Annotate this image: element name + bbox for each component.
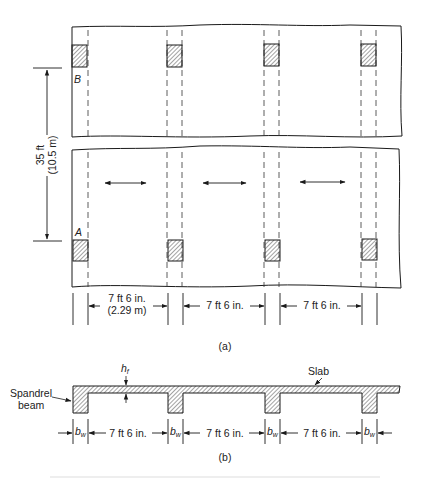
- column-label-A: A: [74, 226, 82, 238]
- span-3-label: 7 ft 6 in.: [303, 299, 340, 311]
- plan-view: B A 35 ft (10.5 m): [33, 24, 402, 352]
- svg-text:bw: bw: [267, 425, 279, 438]
- span-direction-arrows: [105, 182, 345, 183]
- beam-label: beam: [18, 399, 45, 411]
- caption-b: (b): [219, 451, 232, 463]
- caption-a: (a): [219, 340, 232, 352]
- clear-span-1: 7 ft 6 in.: [109, 427, 146, 439]
- span-1-label: 7 ft 6 in.: [108, 292, 145, 304]
- svg-text:35 ft: 35 ft: [34, 145, 46, 166]
- faint-bleed-through: [50, 476, 380, 478]
- tbeam-section: [73, 386, 400, 413]
- spandrel-leader: [52, 397, 71, 401]
- svg-text:bw: bw: [75, 425, 87, 438]
- column-B: [72, 45, 87, 67]
- vertical-dimension-label: 35 ft (10.5 m): [34, 135, 58, 174]
- bottom-panel-outline: [72, 146, 401, 288]
- clear-span-2: 7 ft 6 in.: [206, 427, 243, 439]
- svg-text:bw: bw: [170, 425, 182, 438]
- column-label-B: B: [74, 73, 81, 85]
- spandrel-label: Spandrel: [10, 387, 52, 399]
- span-2-label: 7 ft 6 in.: [206, 299, 243, 311]
- columns-top-row: [72, 44, 376, 67]
- svg-text:bw: bw: [364, 425, 376, 438]
- columns-bottom-row: [73, 239, 377, 261]
- section-view: Slab Spandrel beam hf bw bw: [10, 362, 400, 463]
- beam-dashed-lines: [88, 30, 376, 287]
- svg-text:(10.5 m): (10.5 m): [46, 135, 58, 174]
- slab-label: Slab: [308, 365, 329, 377]
- top-panel-outline: [72, 24, 402, 137]
- span-1-metric: (2.29 m): [107, 304, 146, 316]
- column-A: [73, 240, 88, 261]
- slab-leader: [315, 378, 322, 385]
- figure-canvas: B A 35 ft (10.5 m): [0, 0, 423, 480]
- hf-label: hf: [121, 362, 130, 375]
- clear-span-3: 7 ft 6 in.: [303, 427, 340, 439]
